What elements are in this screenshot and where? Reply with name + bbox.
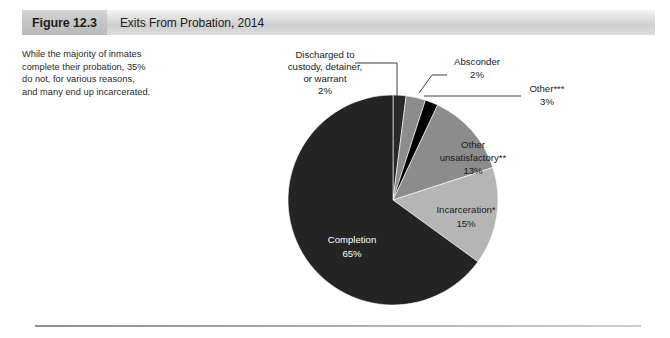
- slice-label-other-unsatisfactory: Other unsatisfactory** 13%: [440, 139, 507, 176]
- pie-slices: [288, 95, 498, 305]
- figure-bottom-rule: [35, 325, 641, 327]
- caption-line-4: and many end up incarcerated.: [22, 86, 182, 99]
- callout-discharged: Discharged to custody, detainer, or warr…: [288, 49, 363, 96]
- figure-header-bar: Figure 12.3 Exits From Probation, 2014: [22, 10, 655, 35]
- leader-line-absconder: [419, 75, 447, 93]
- pie-slice-other-unsatisfactory: [393, 105, 493, 200]
- caption-line-2: complete their probation, 35%: [22, 61, 182, 74]
- slice-label-incarceration: Incarceration* 15%: [436, 204, 495, 229]
- figure-title: Exits From Probation, 2014: [107, 10, 264, 35]
- callout-absconder-name: Absconder: [454, 56, 501, 67]
- callout-discharged-line2: custody, detainer,: [288, 61, 363, 72]
- pie-slice-completion: [288, 95, 478, 305]
- callout-discharged-percent: 2%: [318, 85, 332, 96]
- caption-line-1: While the majority of inmates: [22, 48, 182, 61]
- label-completion-name: Completion: [328, 234, 377, 245]
- pie-slice-absconder: [393, 100, 438, 200]
- label-incarceration-name: Incarceration*: [436, 204, 495, 215]
- figure-number: Figure 12.3: [22, 10, 107, 35]
- label-other-unsat-percent: 13%: [463, 165, 483, 176]
- label-incarceration-percent: 15%: [456, 218, 476, 229]
- leader-lines: [355, 63, 521, 101]
- callout-discharged-line3: or warrant: [303, 73, 347, 84]
- slice-label-completion: Completion 65%: [328, 234, 377, 259]
- callout-absconder-percent: 2%: [470, 69, 484, 80]
- pie-slice-incarceration: [393, 168, 498, 262]
- pie-slice-other: [393, 96, 425, 200]
- label-completion-percent: 65%: [342, 248, 362, 259]
- callout-discharged-line1: Discharged to: [295, 49, 354, 60]
- leader-line-discharged: [355, 63, 397, 101]
- caption-line-3: do not, for various reasons,: [22, 73, 182, 86]
- callout-other: Other*** 3%: [529, 83, 564, 107]
- label-other-unsat-line1: Other: [461, 139, 486, 150]
- callout-other-percent: 3%: [540, 96, 554, 107]
- pie-slice-discharged: [393, 95, 406, 200]
- figure-caption: While the majority of inmates complete t…: [22, 48, 182, 98]
- callout-other-name: Other***: [529, 83, 564, 94]
- callout-absconder: Absconder 2%: [454, 56, 501, 80]
- label-other-unsat-line2: unsatisfactory**: [440, 152, 507, 163]
